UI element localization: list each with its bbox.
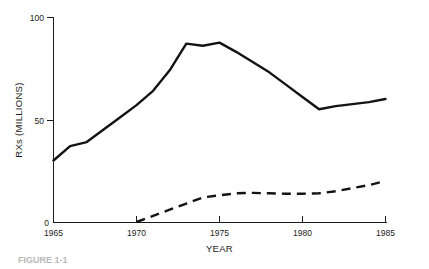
x-axis-title: YEAR [206,243,233,254]
y-tick-label-100: 100 [30,13,44,23]
x-tick-label-1970: 1970 [127,228,146,238]
figure-caption: FIGURE 1-1 [18,256,208,265]
line-chart: 100 50 0 1965 1970 1975 1980 1985 YEAR R… [0,0,429,269]
x-tick-label-1965: 1965 [44,228,63,238]
x-tick-label-1980: 1980 [293,228,312,238]
figure-container: 100 50 0 1965 1970 1975 1980 1985 YEAR R… [0,0,429,269]
y-axis-title: RXs (MILLIONS) [13,82,24,157]
x-tick-label-1975: 1975 [210,228,229,238]
y-tick-label-50: 50 [35,116,45,126]
x-tick-label-1985: 1985 [376,228,395,238]
y-tick-label-0: 0 [44,218,49,228]
figure-caption-text: FIGURE 1-1 [18,256,208,265]
